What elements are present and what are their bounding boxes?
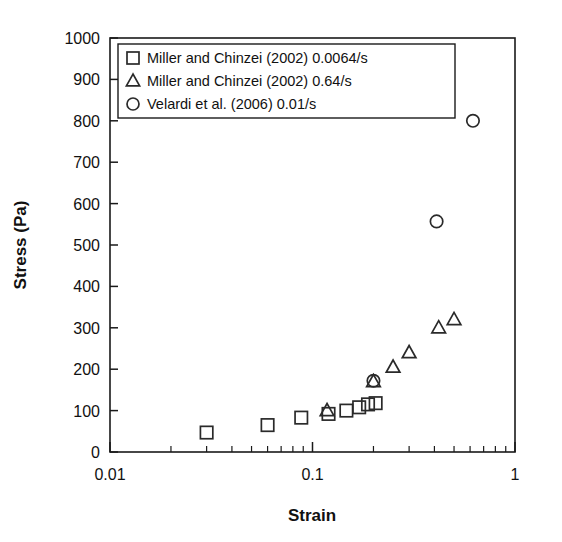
legend-label: Velardi et al. (2006) 0.01/s <box>147 96 316 112</box>
x-axis-label: Strain <box>288 506 336 525</box>
y-tick-label: 900 <box>73 71 100 88</box>
chart-canvas: 01002003004005006007008009001000 0.010.1… <box>0 0 562 542</box>
legend-label: Miller and Chinzei (2002) 0.64/s <box>147 73 352 89</box>
y-tick-label: 100 <box>73 403 100 420</box>
y-tick-label: 800 <box>73 113 100 130</box>
y-tick-label: 400 <box>73 278 100 295</box>
y-axis-label: Stress (Pa) <box>11 201 30 290</box>
y-tick-label: 300 <box>73 320 100 337</box>
y-tick-label: 500 <box>73 237 100 254</box>
chart-legend: Miller and Chinzei (2002) 0.0064/sMiller… <box>118 44 455 118</box>
y-tick-label: 0 <box>91 444 100 461</box>
stress-strain-chart: 01002003004005006007008009001000 0.010.1… <box>0 0 562 542</box>
y-tick-label: 700 <box>73 154 100 171</box>
y-tick-label: 200 <box>73 361 100 378</box>
legend-label: Miller and Chinzei (2002) 0.0064/s <box>147 50 368 66</box>
y-tick-label: 1000 <box>64 30 100 47</box>
x-tick-label: 0.1 <box>301 466 323 483</box>
x-tick-label: 1 <box>511 466 520 483</box>
x-tick-label: 0.01 <box>94 466 125 483</box>
y-tick-label: 600 <box>73 196 100 213</box>
